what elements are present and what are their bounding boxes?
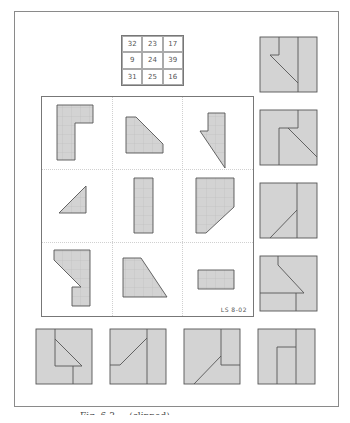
solution-square-right-4 (260, 256, 317, 311)
piece-right-trapezoid (123, 258, 167, 297)
solution-square-bottom-1 (36, 329, 92, 384)
solution-square-right-2 (260, 110, 317, 165)
pieces-drawing (0, 0, 350, 423)
piece-tall-rectangle (134, 178, 153, 233)
piece-hook-triangle (200, 113, 225, 168)
piece-trapezoid-cut (126, 117, 163, 153)
piece-small-triangle (59, 186, 86, 213)
solution-square-right-3 (260, 183, 317, 238)
solution-square-bottom-3 (184, 329, 240, 384)
piece-small-rectangle (198, 270, 234, 289)
solution-square-right-1 (260, 37, 317, 92)
solution-square-bottom-2 (110, 329, 166, 384)
piece-chamfered-rectangle (196, 178, 234, 233)
piece-notched-bar (54, 250, 90, 306)
piece-l-shape (57, 105, 93, 160)
solution-square-bottom-4 (258, 329, 315, 384)
